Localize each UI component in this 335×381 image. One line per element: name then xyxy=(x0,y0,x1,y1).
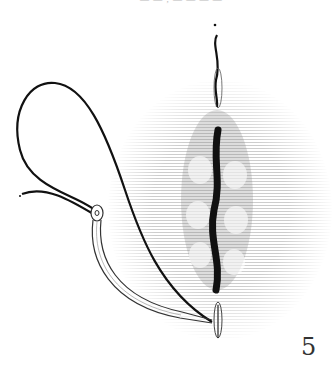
figure-number: 5 xyxy=(301,333,316,361)
surgical-illustration xyxy=(0,0,335,381)
wound-tissue xyxy=(181,110,253,290)
